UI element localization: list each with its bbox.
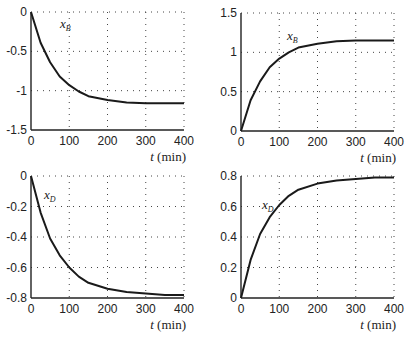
series-label-x_D: xD bbox=[261, 197, 274, 214]
grid bbox=[31, 12, 184, 130]
x-axis-label: t (min) bbox=[360, 317, 396, 332]
y-tick-label: 0 bbox=[20, 169, 27, 183]
y-tick-label: -0.2 bbox=[6, 200, 27, 214]
x-tick-label: 300 bbox=[346, 302, 366, 316]
figure: 01002003004000-0.5-1-1.5t (min)xB0100200… bbox=[0, 0, 409, 339]
x-tick-label: 0 bbox=[238, 135, 245, 149]
x-tick-label: 300 bbox=[136, 134, 156, 148]
x-tick-label: 100 bbox=[59, 134, 79, 148]
x-tick-label: 300 bbox=[346, 135, 366, 149]
y-tick-label: 1 bbox=[230, 45, 237, 59]
series-line-x_D bbox=[241, 178, 394, 299]
x-tick-label: 0 bbox=[28, 134, 35, 148]
subplot-bottom-left: 01002003004000-0.2-0.4-0.6-0.8t (min)xD bbox=[6, 169, 194, 332]
subplot-top-left: 01002003004000-0.5-1-1.5t (min)xB bbox=[6, 5, 194, 164]
series-label-x_B: xB bbox=[286, 28, 298, 45]
y-tick-label: -0.6 bbox=[6, 261, 27, 275]
y-tick-label: -1 bbox=[16, 84, 27, 98]
x-axis-label: t (min) bbox=[150, 317, 186, 332]
x-tick-label: 400 bbox=[384, 135, 404, 149]
x-tick-label: 0 bbox=[28, 302, 35, 316]
y-tick-label: 0.4 bbox=[220, 230, 237, 244]
subplot-bottom-right: 010020030040000.20.40.60.8t (min)xD bbox=[220, 169, 404, 332]
series-line-x_B bbox=[31, 12, 184, 103]
x-tick-label: 200 bbox=[307, 302, 327, 316]
series-label-x_D: xD bbox=[43, 187, 56, 204]
x-tick-label: 100 bbox=[269, 302, 289, 316]
y-tick-label: -0.5 bbox=[6, 44, 27, 58]
x-tick-label: 400 bbox=[174, 302, 194, 316]
x-axis-label: t (min) bbox=[360, 150, 396, 165]
x-tick-label: 400 bbox=[384, 302, 404, 316]
x-tick-label: 100 bbox=[59, 302, 79, 316]
y-tick-label: 0 bbox=[230, 124, 237, 138]
y-tick-label: 0 bbox=[20, 5, 27, 19]
y-tick-label: -0.4 bbox=[6, 230, 27, 244]
x-tick-label: 200 bbox=[97, 302, 117, 316]
y-tick-label: -0.8 bbox=[6, 291, 27, 305]
grid bbox=[241, 13, 394, 131]
series-line-x_D bbox=[31, 176, 184, 295]
x-tick-label: 200 bbox=[97, 134, 117, 148]
y-tick-label: 1.5 bbox=[220, 6, 237, 20]
y-tick-label: 0 bbox=[230, 291, 237, 305]
x-tick-label: 300 bbox=[136, 302, 156, 316]
x-tick-label: 100 bbox=[269, 135, 289, 149]
subplot-top-right: 010020030040000.511.5t (min)xB bbox=[220, 6, 404, 165]
y-tick-label: 0.2 bbox=[220, 261, 237, 275]
x-tick-label: 0 bbox=[238, 302, 245, 316]
y-tick-label: 0.5 bbox=[220, 85, 237, 99]
y-tick-label: -1.5 bbox=[6, 123, 27, 137]
x-tick-label: 400 bbox=[174, 134, 194, 148]
y-tick-label: 0.8 bbox=[220, 169, 237, 183]
grid bbox=[241, 176, 394, 298]
y-tick-label: 0.6 bbox=[220, 200, 237, 214]
x-tick-label: 200 bbox=[307, 135, 327, 149]
x-axis-label: t (min) bbox=[150, 149, 186, 164]
